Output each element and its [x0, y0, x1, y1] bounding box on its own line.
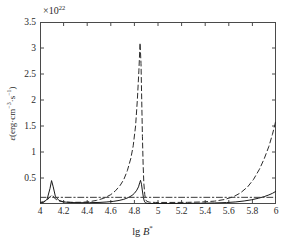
axis-ticks [40, 22, 276, 204]
plot-frame [41, 23, 276, 204]
chart-svg [40, 22, 276, 204]
figure-container: ×1022 ε(erg·cm−3·s−1) lg B* 0.511.522.53… [0, 0, 285, 244]
plot-area [40, 22, 276, 204]
x-tick-label: 5.6 [223, 206, 235, 216]
x-tick-label: 4 [38, 206, 43, 216]
x-tick-label: 4.8 [128, 206, 140, 216]
x-tick-label: 6 [274, 206, 279, 216]
x-tick-label: 4.2 [58, 206, 70, 216]
x-tick-label: 5.8 [246, 206, 258, 216]
x-tick-label: 5.4 [199, 206, 211, 216]
x-tick-label: 5.2 [176, 206, 188, 216]
x-tick-label: 5 [156, 206, 161, 216]
data-series-group [40, 43, 276, 204]
series-dashed-curve [40, 43, 276, 203]
x-tick-label: 4.6 [105, 206, 117, 216]
x-tick-label: 4.4 [81, 206, 93, 216]
